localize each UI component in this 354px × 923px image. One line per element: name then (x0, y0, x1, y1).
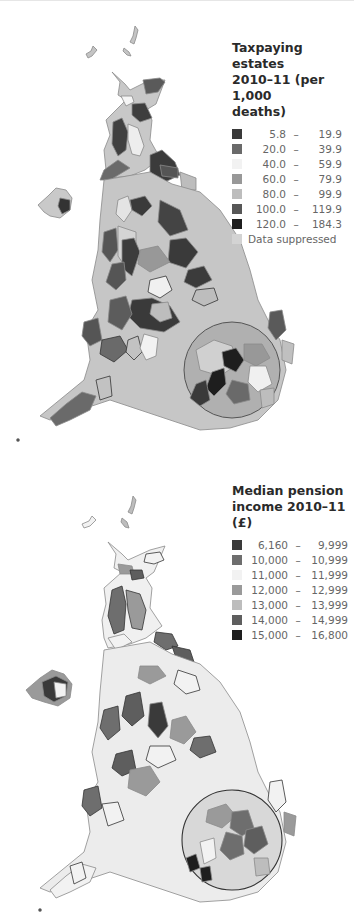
range-low: 11,000 (248, 569, 288, 581)
range-low: 14,000 (248, 614, 288, 626)
legend-title: Median pension income 2010–11 (£) (232, 483, 354, 531)
legend-title-line: 2010–11 (per 1,000 (232, 72, 354, 104)
range-low: 40.0 (248, 158, 286, 170)
legend-median-pension-income: Median pension income 2010–11 (£) 6,160–… (232, 483, 354, 642)
range-high: 184.3 (306, 218, 342, 230)
range-dash: – (288, 569, 308, 581)
range-high: 19.9 (306, 128, 342, 140)
range-low: 60.0 (248, 173, 286, 185)
range-dash: – (288, 629, 308, 641)
swatch (232, 630, 242, 640)
range-high: 10,999 (308, 554, 348, 566)
range-low: 5.8 (248, 128, 286, 140)
range-high: 99.9 (306, 188, 342, 200)
range-dash: – (286, 128, 306, 140)
range-high: 59.9 (306, 158, 342, 170)
legend-class-4: 60.0–79.9 (232, 171, 354, 186)
swatch (232, 204, 242, 214)
suppressed-label: Data suppressed (248, 233, 336, 245)
legend-class-5: 13,000–13,999 (232, 597, 354, 612)
swatch (232, 540, 242, 550)
orkney-region (86, 46, 97, 58)
range-high: 12,999 (308, 584, 348, 596)
range-dash: – (288, 599, 308, 611)
legend-class-3: 40.0–59.9 (232, 156, 354, 171)
range-dash: – (288, 539, 308, 551)
range-low: 10,000 (248, 554, 288, 566)
swatch (232, 219, 242, 229)
legend-taxpaying-estates: Taxpaying estates 2010–11 (per 1,000 dea… (232, 40, 354, 246)
legend-title-line: Taxpaying estates (232, 40, 354, 72)
shetland-region (130, 26, 138, 44)
range-dash: – (286, 188, 306, 200)
range-low: 100.0 (248, 203, 286, 215)
legend-class-2: 10,000–10,999 (232, 552, 354, 567)
legend-class-7: 15,000–16,800 (232, 627, 354, 642)
swatch (232, 600, 242, 610)
swatch (232, 570, 242, 580)
range-high: 119.9 (306, 203, 342, 215)
range-low: 80.0 (248, 188, 286, 200)
range-dash: – (288, 614, 308, 626)
legend-title-line: income 2010–11 (£) (232, 499, 354, 531)
swatch (232, 159, 242, 169)
swatch (232, 585, 242, 595)
legend-title-line: Median pension (232, 483, 354, 499)
range-dash: – (286, 218, 306, 230)
legend-class-1: 5.8–19.9 (232, 126, 354, 141)
range-dash: – (286, 173, 306, 185)
range-low: 13,000 (248, 599, 288, 611)
swatch (232, 615, 242, 625)
range-high: 79.9 (306, 173, 342, 185)
swatch (232, 174, 242, 184)
range-high: 9,999 (308, 539, 348, 551)
range-low: 6,160 (248, 539, 288, 551)
swatch (232, 129, 242, 139)
range-dash: – (286, 143, 306, 155)
legend-class-2: 20.0–39.9 (232, 141, 354, 156)
legend-data-suppressed: Data suppressed (232, 231, 354, 246)
legend-class-7: 120.0–184.3 (232, 216, 354, 231)
range-dash: – (286, 203, 306, 215)
range-high: 16,800 (308, 629, 348, 641)
swatch (232, 234, 242, 244)
range-high: 39.9 (306, 143, 342, 155)
range-dash: – (288, 554, 308, 566)
range-dash: – (288, 584, 308, 596)
legend-class-4: 12,000–12,999 (232, 582, 354, 597)
legend-class-3: 11,000–11,999 (232, 567, 354, 582)
range-high: 14,999 (308, 614, 348, 626)
legend-class-6: 14,000–14,999 (232, 612, 354, 627)
hebrides-region (123, 48, 131, 56)
range-low: 15,000 (248, 629, 288, 641)
range-high: 11,999 (308, 569, 348, 581)
range-high: 13,999 (308, 599, 348, 611)
legend-class-6: 100.0–119.9 (232, 201, 354, 216)
legend-class-5: 80.0–99.9 (232, 186, 354, 201)
range-dash: – (286, 158, 306, 170)
legend-title-line: deaths) (232, 104, 354, 120)
swatch (232, 555, 242, 565)
range-low: 20.0 (248, 143, 286, 155)
range-low: 120.0 (248, 218, 286, 230)
map-panel-taxpaying-estates: Taxpaying estates 2010–11 (per 1,000 dea… (0, 0, 354, 470)
legend-class-1: 6,160–9,999 (232, 537, 354, 552)
range-low: 12,000 (248, 584, 288, 596)
swatch (232, 144, 242, 154)
swatch (232, 189, 242, 199)
legend-title: Taxpaying estates 2010–11 (per 1,000 dea… (232, 40, 354, 120)
map-panel-median-pension-income: Median pension income 2010–11 (£) 6,160–… (0, 470, 354, 923)
